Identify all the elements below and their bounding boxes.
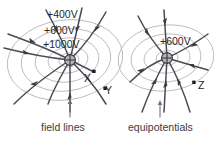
- physics-diagram: +400V +600V +1000V +600V X Y Z field lin…: [0, 0, 214, 143]
- right-point-label-z: Z: [198, 79, 205, 91]
- left-point-label-x: X: [84, 72, 91, 84]
- left-positive-charge: [65, 55, 76, 66]
- right-positive-charge: [162, 53, 173, 64]
- left-label-400v: +400V: [47, 8, 78, 20]
- right-label-600v: +600V: [160, 35, 191, 47]
- left-label-1000v: +1000V: [43, 38, 80, 50]
- equipotentials-caption: equipotentials: [128, 121, 193, 133]
- right-field-line-l: [130, 58, 167, 82]
- equipotentials-leader-head: [158, 100, 162, 105]
- right-point-marker-z: [192, 81, 195, 84]
- right-field-line-dl: [142, 58, 167, 112]
- caption-leaders: [68, 99, 163, 117]
- left-point-marker-x: [92, 70, 95, 73]
- left-point-label-y: Y: [105, 84, 112, 96]
- left-label-600v: +600V: [44, 24, 75, 36]
- diagram-canvas: +400V +600V +1000V +600V X Y Z field lin…: [0, 0, 214, 143]
- field-lines-caption: field lines: [41, 121, 85, 133]
